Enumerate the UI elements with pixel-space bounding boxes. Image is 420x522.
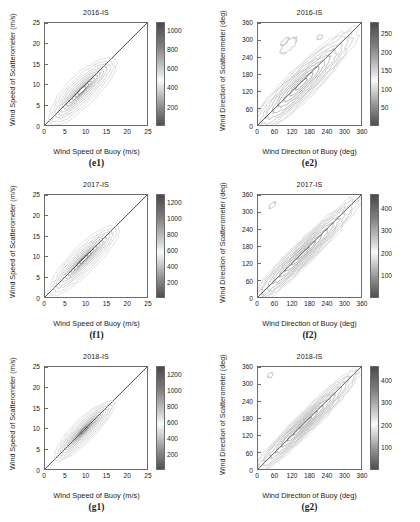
colorbar-tick-label: 800	[167, 403, 178, 410]
y-tick-mark	[258, 108, 261, 109]
colorbar-tick-label: 800	[167, 45, 178, 52]
y-tick-mark	[45, 23, 48, 24]
y-axis-label-g1: Wind Speed of Scatterometer (m/s)	[8, 357, 17, 470]
x-axis-ticks-e1: 0510152025	[44, 128, 148, 140]
y-tick-mark	[258, 74, 261, 75]
x-axis-label-g1: Wind Speed of Buoy (m/s)	[24, 491, 169, 500]
y-tick-label: 0	[36, 467, 40, 474]
y-tick-mark	[45, 469, 48, 470]
y-tick-label: 240	[242, 397, 253, 404]
colorbar-e2	[370, 22, 379, 126]
colorbar-tick-label: 400	[167, 262, 178, 269]
y-tick-label: 300	[242, 208, 253, 215]
x-tick-label: 5	[63, 128, 67, 135]
y-tick-mark	[45, 84, 48, 85]
x-tick-label: 180	[304, 128, 315, 135]
y-tick-mark	[45, 428, 48, 429]
x-tick-label: 10	[82, 300, 89, 307]
x-tick-label: 15	[103, 472, 110, 479]
y-tick-mark	[45, 256, 48, 257]
colorbar-tick-label: 400	[167, 434, 178, 441]
y-tick-mark	[45, 195, 48, 196]
contour-plot-e1	[45, 23, 147, 125]
plot-area-e2	[257, 22, 362, 126]
y-tick-label: 300	[242, 36, 253, 43]
y-axis-ticks-e2: 060120180240300360	[232, 22, 255, 126]
x-tick-label: 360	[356, 472, 367, 479]
y-tick-mark	[45, 215, 48, 216]
colorbar-tick-label: 1200	[167, 199, 182, 206]
y-axis-label-g2: Wind Direction of Scatterometer (deg)	[218, 354, 227, 475]
colorbar-tick-label: 1000	[167, 387, 182, 394]
colorbar-tick-label: 600	[167, 65, 178, 72]
panel-title-g2: 2018-IS	[257, 352, 362, 361]
y-tick-label: 120	[242, 432, 253, 439]
colorbar-tick-label: 200	[381, 249, 392, 256]
x-tick-label: 25	[144, 300, 151, 307]
y-tick-mark	[258, 57, 261, 58]
panel-caption-f1: (f1)	[24, 330, 169, 340]
y-tick-mark	[258, 23, 261, 24]
x-tick-label: 25	[144, 128, 151, 135]
y-axis-label-e2: Wind Direction of Scatterometer (deg)	[218, 10, 227, 131]
panel-g1: 2018-IS05101520250510152025Wind Speed of…	[0, 344, 210, 518]
x-tick-label: 0	[42, 300, 46, 307]
y-axis-label-f2: Wind Direction of Scatterometer (deg)	[218, 182, 227, 303]
x-tick-label: 60	[271, 472, 278, 479]
y-tick-label: 180	[242, 243, 253, 250]
y-tick-mark	[258, 229, 261, 230]
y-axis-ticks-f1: 0510152025	[20, 194, 42, 298]
y-tick-label: 25	[33, 363, 40, 370]
y-tick-label: 5	[36, 102, 40, 109]
colorbar-tick-label: 300	[381, 399, 392, 406]
panel-title-g1: 2018-IS	[44, 352, 148, 361]
y-tick-label: 25	[33, 191, 40, 198]
y-axis-label-f1: Wind Speed of Scatterometer (m/s)	[8, 185, 17, 298]
y-tick-label: 0	[249, 123, 253, 130]
y-tick-label: 10	[33, 253, 40, 260]
y-tick-label: 5	[36, 446, 40, 453]
panel-title-e2: 2016-IS	[257, 8, 362, 17]
colorbar-tick-label: 100	[381, 85, 392, 92]
panel-caption-e2: (e2)	[237, 158, 382, 168]
panel-f1: 2017-IS05101520250510152025Wind Speed of…	[0, 172, 210, 346]
x-tick-label: 300	[339, 472, 350, 479]
y-tick-label: 0	[249, 295, 253, 302]
x-tick-label: 240	[321, 300, 332, 307]
colorbar-tick-label: 200	[167, 279, 178, 286]
y-tick-mark	[45, 236, 48, 237]
x-tick-label: 15	[103, 300, 110, 307]
x-axis-label-e2: Wind Direction of Buoy (deg)	[237, 147, 382, 156]
x-axis-label-f2: Wind Direction of Buoy (deg)	[237, 319, 382, 328]
y-tick-label: 25	[33, 19, 40, 26]
x-axis-ticks-e2: 060120180240300360	[257, 128, 362, 140]
panel-caption-f2: (f2)	[237, 330, 382, 340]
colorbar-tick-label: 1000	[167, 215, 182, 222]
plot-area-g1	[44, 366, 148, 470]
y-tick-mark	[258, 435, 261, 436]
contour-plot-f2	[258, 195, 361, 297]
x-tick-label: 0	[42, 472, 46, 479]
panel-caption-e1: (e1)	[24, 158, 169, 168]
y-tick-label: 20	[33, 383, 40, 390]
y-tick-label: 240	[242, 225, 253, 232]
colorbar-tick-label: 600	[167, 247, 178, 254]
y-tick-label: 0	[36, 123, 40, 130]
y-tick-mark	[258, 418, 261, 419]
panel-f2: 2017-IS060120180240300360060120180240300…	[210, 172, 420, 346]
y-tick-label: 10	[33, 81, 40, 88]
x-axis-label-f1: Wind Speed of Buoy (m/s)	[24, 319, 169, 328]
panel-g2: 2018-IS060120180240300360060120180240300…	[210, 344, 420, 518]
colorbar-tick-label: 300	[381, 227, 392, 234]
y-tick-mark	[45, 43, 48, 44]
colorbar-f2	[370, 194, 379, 298]
colorbar-f1	[156, 194, 165, 298]
colorbar-tick-label: 400	[167, 84, 178, 91]
y-tick-mark	[258, 384, 261, 385]
panel-caption-g2: (g2)	[237, 502, 382, 512]
x-tick-label: 25	[144, 472, 151, 479]
y-axis-ticks-g1: 0510152025	[20, 366, 42, 470]
y-tick-mark	[258, 263, 261, 264]
x-tick-label: 300	[339, 300, 350, 307]
colorbar-tick-label: 800	[167, 231, 178, 238]
